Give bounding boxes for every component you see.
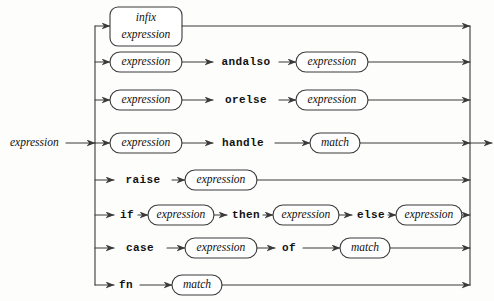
nonterminal-label-infix: infix — [136, 11, 157, 24]
keyword-fn: fn — [119, 279, 133, 291]
railroad-diagram: expression infix expression expression a… — [0, 0, 494, 301]
nonterminal-label-expression: expression — [282, 208, 331, 221]
keyword-handle: handle — [222, 137, 264, 149]
alternative-row-orelse: expression orelse expression — [95, 90, 470, 110]
nonterminal-label-expression: expression — [122, 28, 171, 41]
alternative-row-case-of: case expression of match — [95, 238, 470, 258]
keyword-if: if — [120, 209, 134, 221]
keyword-then: then — [232, 209, 260, 221]
nonterminal-label-match: match — [351, 241, 379, 253]
nonterminal-label-expression: expression — [157, 208, 206, 221]
keyword-raise: raise — [125, 174, 160, 186]
alternative-row-raise: raise expression — [95, 170, 470, 190]
nonterminal-label-expression: expression — [308, 55, 357, 68]
keyword-case: case — [126, 242, 154, 254]
alternative-row-if-then-else: if expression then expression else expre… — [95, 205, 470, 225]
keyword-else: else — [357, 209, 385, 221]
nonterminal-label-expression: expression — [405, 208, 454, 221]
entry-label-expression: expression — [10, 136, 59, 149]
nonterminal-label-expression: expression — [122, 136, 171, 149]
keyword-andalso: andalso — [221, 56, 270, 68]
nonterminal-label-match: match — [183, 278, 211, 290]
alternative-row-andalso: expression andalso expression — [95, 52, 470, 72]
keyword-of: of — [282, 242, 296, 254]
keyword-orelse: orelse — [225, 94, 267, 106]
alternative-row-infix: infix expression — [95, 7, 470, 46]
nonterminal-label-match: match — [321, 136, 349, 148]
nonterminal-label-expression: expression — [122, 93, 171, 106]
alternative-row-handle: expression handle match — [95, 133, 470, 153]
nonterminal-label-expression: expression — [308, 93, 357, 106]
nonterminal-label-expression: expression — [197, 173, 246, 186]
nonterminal-label-expression: expression — [122, 55, 171, 68]
syntax-diagram-canvas: expression infix expression expression a… — [0, 0, 494, 301]
alternative-row-fn-match: fn match — [95, 275, 470, 295]
nonterminal-label-expression: expression — [197, 241, 246, 254]
